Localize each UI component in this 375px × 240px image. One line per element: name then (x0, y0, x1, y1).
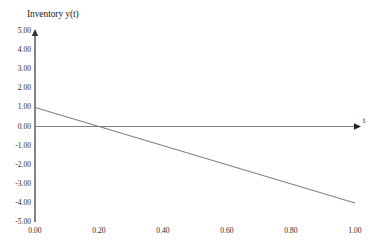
series-line-inventory (35, 107, 355, 202)
t-axis-arrowhead (354, 123, 361, 129)
plot-area (0, 0, 375, 240)
inventory-chart: Inventory y(t) 5.004.003.002.001.000.00-… (0, 0, 375, 240)
y-axis-arrowhead (32, 29, 38, 36)
